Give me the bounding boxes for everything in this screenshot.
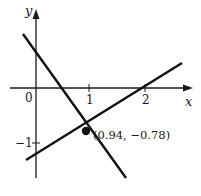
y-axis-arrow-icon [33, 9, 40, 19]
graph: y x 0 1 2 −1 (0.94, −0.78) [0, 0, 201, 196]
x-tick-label-2: 2 [142, 93, 150, 107]
y-axis-label: y [24, 3, 33, 18]
origin-label: 0 [25, 91, 33, 105]
y-tick-label-neg1: −1 [15, 136, 33, 150]
x-tick-label-1: 1 [86, 93, 94, 107]
x-axis-label: x [185, 94, 193, 109]
x-axis-arrow-icon [183, 85, 193, 92]
intersection-point [82, 127, 90, 135]
decreasing-line [23, 34, 126, 178]
intersection-label: (0.94, −0.78) [93, 128, 170, 142]
